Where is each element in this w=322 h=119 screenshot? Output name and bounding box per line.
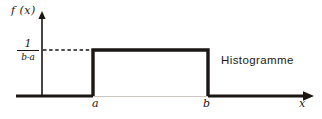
y-value-denominator: b-a (16, 51, 40, 63)
y-axis-value-label: 1 b-a (16, 38, 40, 63)
y-axis-arrowhead (38, 11, 45, 19)
x-tick-label-a: a (92, 98, 99, 109)
histogram-figure: f (x) 1 b-a a b x Histogramme (0, 0, 322, 119)
histogram-bar (93, 50, 208, 96)
histogram-annotation-label: Histogramme (221, 55, 294, 67)
x-axis-label: x (299, 98, 305, 109)
y-value-numerator: 1 (16, 38, 40, 50)
y-axis-label: f (x) (11, 5, 36, 16)
x-tick-label-b: b (203, 98, 210, 109)
